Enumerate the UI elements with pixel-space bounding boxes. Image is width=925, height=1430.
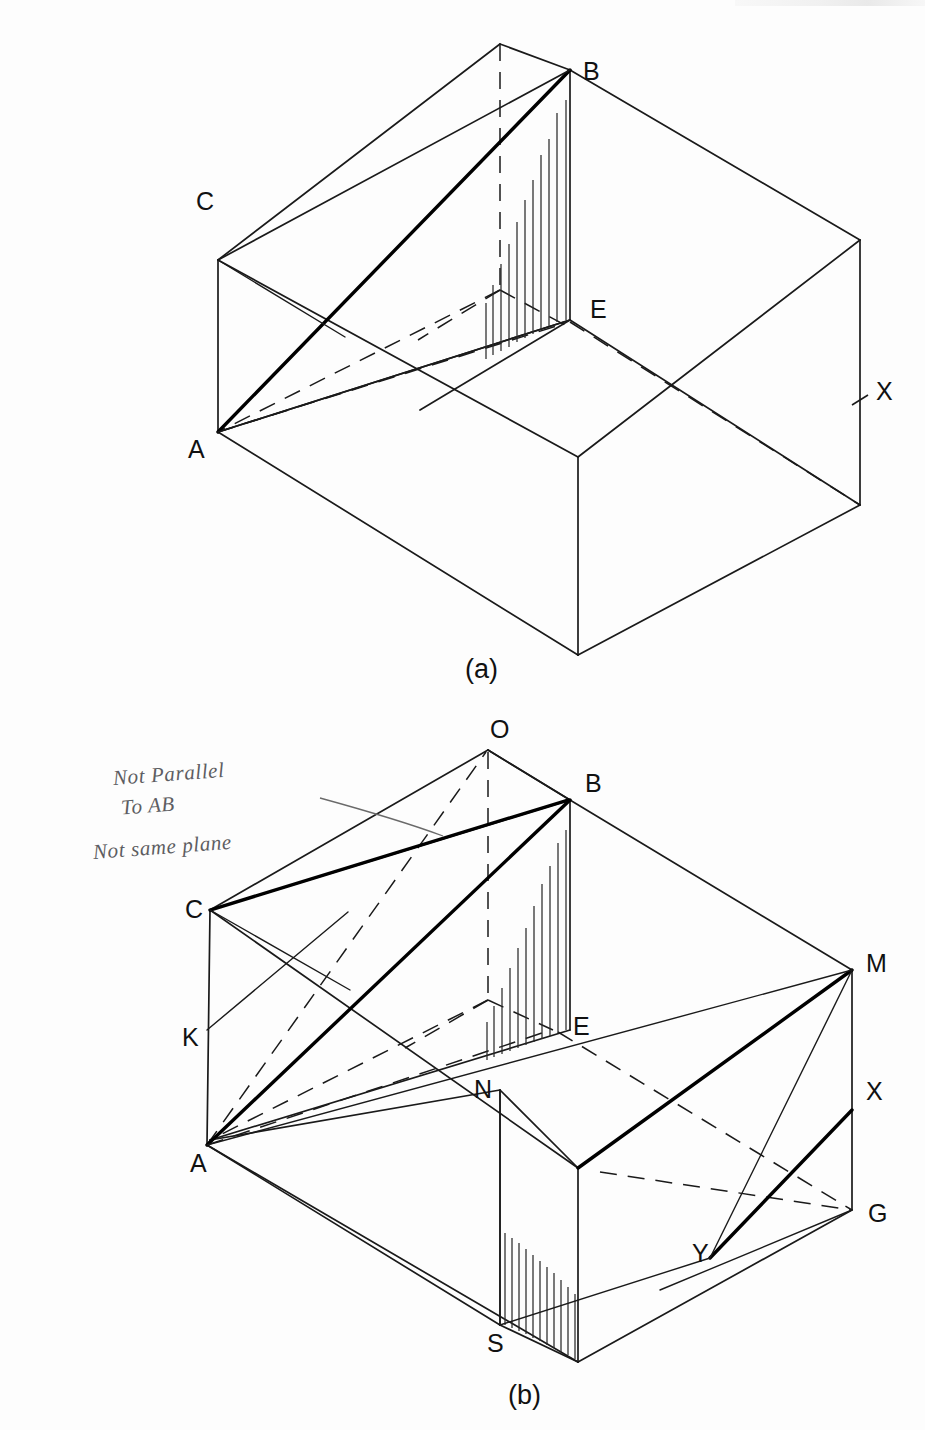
figure-b-outer-box <box>207 750 852 1362</box>
figure-b-label-M: M <box>866 949 887 977</box>
figure-b-label-C: C <box>185 895 204 923</box>
figure-b-partition-plane <box>210 750 570 1140</box>
figure-b-bold-lines <box>207 800 852 1258</box>
figure-a-roof-fold <box>218 260 345 337</box>
figure-b-label-E: E <box>573 1012 590 1040</box>
figure-a-label-A: A <box>188 435 205 463</box>
figure-b-label-X: X <box>866 1077 883 1105</box>
figure-b-hatching-lower <box>505 1233 575 1359</box>
figure-b-label-G: G <box>868 1199 888 1227</box>
figure-b-label-B: B <box>585 769 602 797</box>
figure-a-hatching <box>486 100 566 359</box>
figure-a-label-B: B <box>583 57 600 85</box>
figure-b-label-K: K <box>182 1023 199 1051</box>
figure-a-outer-box <box>218 44 860 655</box>
figure-a-label-X: X <box>876 377 893 405</box>
figure-a-partition-plane <box>218 70 860 505</box>
figure-a-label-E: E <box>590 295 607 323</box>
figure-a-drawing: B C E A X (a) <box>0 0 925 1430</box>
figure-b-annotation-leader <box>320 798 443 836</box>
figure-b-label-Y: Y <box>692 1239 709 1267</box>
not-parallel-note: Not Parallel To AB <box>112 756 228 824</box>
figure-sheet: B C E A X (a) <box>0 0 925 1430</box>
figure-b-slab-ns <box>207 1090 578 1362</box>
figure-b-label-O: O <box>490 715 510 743</box>
figure-b-hidden-edges <box>207 752 852 1210</box>
figure-b-label-N: N <box>474 1075 493 1103</box>
figure-b-label-A: A <box>190 1149 207 1177</box>
figure-a-label-C: C <box>196 187 215 215</box>
figure-b-hatching-upper <box>487 830 566 1060</box>
figure-a-caption: (a) <box>465 654 498 684</box>
figure-b-caption: (b) <box>508 1380 541 1410</box>
figure-b-label-S: S <box>487 1329 504 1357</box>
